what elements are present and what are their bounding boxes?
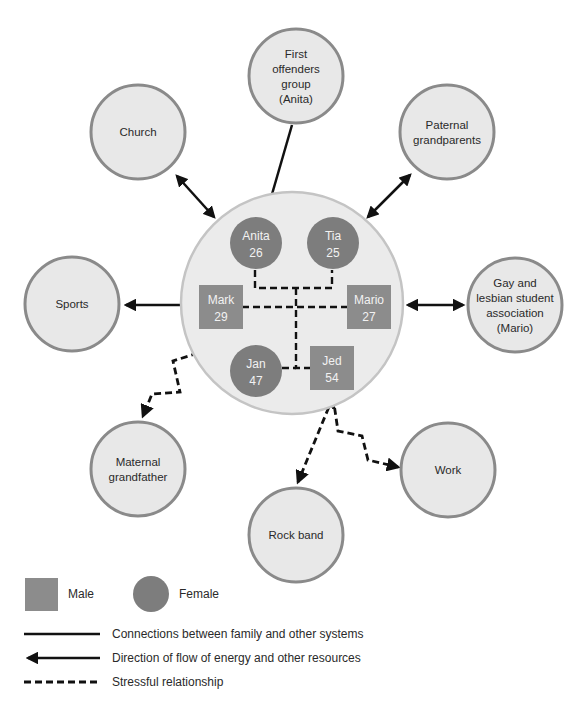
connection-paternal-grandparents xyxy=(368,175,410,217)
member-age: 25 xyxy=(326,246,340,260)
legend: Male Female Connections between family a… xyxy=(24,576,363,689)
legend-arrow-text: Direction of flow of energy and other re… xyxy=(112,651,361,665)
system-circle xyxy=(468,258,562,352)
system-label: Paternal xyxy=(426,119,469,131)
system-label: grandfather xyxy=(109,471,168,483)
member-name: Mark xyxy=(208,293,236,307)
system-gay-lesbian: Gay andlesbian studentassociation(Mario) xyxy=(468,258,562,352)
member-name: Tia xyxy=(325,229,342,243)
female-symbol xyxy=(307,217,359,269)
connection-maternal-grandfather xyxy=(143,353,198,416)
female-symbol xyxy=(230,217,282,269)
system-rock-band: Rock band xyxy=(249,488,343,582)
legend-solid-text: Connections between family and other sys… xyxy=(112,627,363,641)
member-name: Jan xyxy=(246,357,265,371)
member-age: 47 xyxy=(249,374,263,388)
member-name: Mario xyxy=(354,293,384,307)
connection-church xyxy=(177,176,214,217)
system-label: Sports xyxy=(55,298,88,310)
system-label: grandparents xyxy=(413,134,481,146)
member-age: 27 xyxy=(362,310,376,324)
legend-female-symbol xyxy=(133,576,169,612)
system-first-offenders: Firstoffendersgroup(Anita) xyxy=(249,29,343,123)
connection-work xyxy=(333,397,398,467)
system-work: Work xyxy=(401,423,495,517)
member-anita: Anita26 xyxy=(230,217,282,269)
member-tia: Tia25 xyxy=(307,217,359,269)
member-age: 54 xyxy=(325,371,339,385)
legend-male-symbol xyxy=(25,578,58,611)
ecomap-diagram: Firstoffendersgroup(Anita)ChurchPaternal… xyxy=(0,0,583,703)
member-name: Jed xyxy=(322,354,341,368)
legend-dashed-text: Stressful relationship xyxy=(112,675,224,689)
system-label: Church xyxy=(119,126,156,138)
member-mark: Mark29 xyxy=(199,285,243,329)
system-label: Work xyxy=(435,464,462,476)
system-circle xyxy=(249,29,343,123)
system-label: Maternal xyxy=(116,456,161,468)
member-jan: Jan47 xyxy=(230,345,282,397)
system-label: Rock band xyxy=(269,529,324,541)
system-label: group xyxy=(281,78,310,90)
legend-female-label: Female xyxy=(179,587,219,601)
system-label: (Anita) xyxy=(279,93,313,105)
system-circle xyxy=(400,85,494,179)
member-mario: Mario27 xyxy=(347,285,391,329)
system-circle xyxy=(91,422,185,516)
system-paternal-grandparents: Paternalgrandparents xyxy=(400,85,494,179)
system-label: lesbian student xyxy=(476,292,554,304)
system-label: First xyxy=(285,48,308,60)
system-church: Church xyxy=(91,85,185,179)
member-name: Anita xyxy=(242,229,270,243)
member-jed: Jed54 xyxy=(310,346,354,390)
female-symbol xyxy=(230,345,282,397)
member-age: 29 xyxy=(214,310,228,324)
system-label: Gay and xyxy=(493,277,536,289)
system-label: association xyxy=(486,307,544,319)
legend-male-label: Male xyxy=(68,587,94,601)
system-label: (Mario) xyxy=(497,322,534,334)
member-age: 26 xyxy=(249,246,263,260)
system-sports: Sports xyxy=(25,257,119,351)
system-maternal-grandfather: Maternalgrandfather xyxy=(91,422,185,516)
system-label: offenders xyxy=(272,63,320,75)
